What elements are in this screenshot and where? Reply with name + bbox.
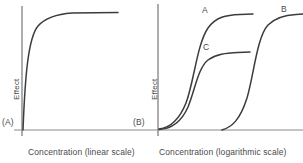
panel-b-plot [150, 0, 303, 163]
curve-a [159, 14, 253, 129]
panel-a: Effect (A) Concentration (linear scale) [0, 0, 151, 163]
panel-b: Effect (B) Concentration (logarithmic sc… [150, 0, 303, 163]
curve-label-b: B [281, 4, 287, 14]
curve-b [222, 14, 303, 130]
panel-b-tag: (B) [133, 117, 145, 127]
panel-a-x-axis-label: Concentration (linear scale) [28, 147, 135, 157]
panel-a-tag: (A) [2, 117, 14, 127]
panel-a-plot [0, 0, 151, 163]
dose-response-figure: Effect (A) Concentration (linear scale) … [0, 0, 303, 163]
panel-b-x-axis-label: Concentration (logarithmic scale) [159, 147, 287, 157]
curve-label-c: C [203, 42, 209, 52]
panel-a-y-axis-label: Effect [12, 78, 21, 100]
curve-hyperbolic [23, 13, 118, 131]
panel-b-y-axis-label: Effect [150, 78, 159, 100]
curve-c [159, 52, 250, 130]
curve-label-a: A [202, 5, 208, 15]
